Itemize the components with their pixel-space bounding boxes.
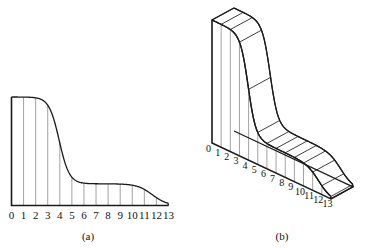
panel-b-tick-label-3: 3 [233,155,238,166]
panel-b-tick-label-9: 9 [288,181,293,192]
figure-container: 012345678910111213 (a) 01234567891011121… [0,0,370,248]
panel-b-tick-label-1: 1 [215,147,220,158]
panel-a-caption: (a) [82,230,95,243]
panel-a-ordinate-lines [24,97,157,205]
panel-b-tick-label-6: 6 [261,168,266,179]
panel-a-tick-label-1: 1 [21,209,27,221]
panel-a: 012345678910111213 (a) [9,97,175,243]
panel-a-tick-labels: 012345678910111213 [9,209,175,221]
panel-a-tick-label-2: 2 [33,209,39,221]
panel-a-curve [12,97,169,205]
panel-b-tick-label-2: 2 [224,151,229,162]
panel-b-tick-label-7: 7 [270,173,275,184]
panel-a-tick-label-11: 11 [139,209,150,221]
panel-b-tick-label-4: 4 [243,160,248,171]
panel-b: 012345678910111213 (b) [206,8,353,243]
panel-b-top-face [212,8,353,199]
figure-svg: 012345678910111213 (a) 01234567891011121… [0,0,370,248]
panel-a-tick-label-7: 7 [93,209,99,221]
panel-b-tick-label-13: 13 [322,198,332,209]
panel-a-tick-label-10: 10 [127,209,139,221]
panel-a-tick-label-12: 12 [151,209,162,221]
panel-b-tick-label-5: 5 [252,164,257,175]
panel-b-caption: (b) [276,230,289,243]
panel-b-tick-label-0: 0 [206,143,211,154]
panel-a-tick-label-5: 5 [69,209,75,221]
panel-b-tick-label-8: 8 [279,177,284,188]
panel-a-tick-label-13: 13 [163,209,175,221]
panel-a-tick-label-6: 6 [81,209,87,221]
panel-a-tick-label-8: 8 [105,209,111,221]
panel-a-tick-label-9: 9 [117,209,123,221]
panel-a-tick-label-4: 4 [57,209,63,221]
panel-a-tick-label-3: 3 [45,209,51,221]
panel-a-tick-label-0: 0 [9,209,15,221]
